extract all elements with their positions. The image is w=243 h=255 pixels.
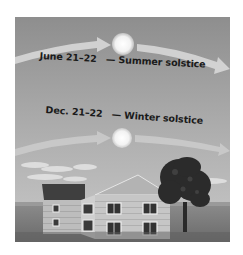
winter-sun-icon [112, 128, 132, 148]
grass-foreground [15, 232, 230, 242]
summer-sun-icon [112, 33, 134, 55]
